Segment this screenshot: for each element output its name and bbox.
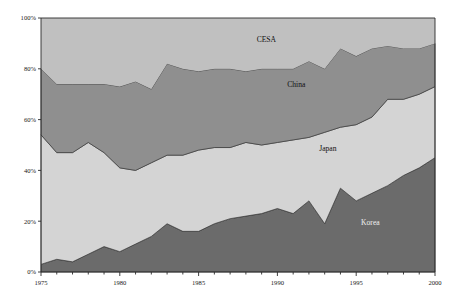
x-axis-tick-labels: 197519801985199019952000 (34, 279, 442, 286)
chart-container: 0%20%40%60%80%100% 197519801985199019952… (0, 0, 453, 305)
series-label-cesa: CESA (257, 35, 277, 44)
y-tick-label: 40% (24, 167, 37, 174)
y-tick-label: 100% (21, 14, 37, 21)
y-tick-label: 60% (24, 116, 37, 123)
area-series-group (41, 18, 435, 272)
stacked-area-chart: 0%20%40%60%80%100% 197519801985199019952… (0, 0, 453, 305)
series-label-korea: Korea (361, 218, 380, 227)
y-axis-tick-labels: 0%20%40%60%80%100% (21, 14, 37, 275)
y-tick-label: 20% (24, 218, 37, 225)
plot-area: 0%20%40%60%80%100% 197519801985199019952… (21, 14, 443, 286)
y-tick-label: 0% (27, 268, 36, 275)
x-tick-label: 1975 (34, 279, 48, 286)
x-tick-label: 1985 (192, 279, 206, 286)
y-tick-label: 80% (24, 65, 37, 72)
x-tick-label: 2000 (428, 279, 442, 286)
x-tick-label: 1990 (271, 279, 285, 286)
series-label-china: China (287, 80, 306, 89)
x-tick-label: 1980 (113, 279, 127, 286)
x-tick-label: 1995 (350, 279, 364, 286)
series-label-japan: Japan (319, 144, 336, 153)
